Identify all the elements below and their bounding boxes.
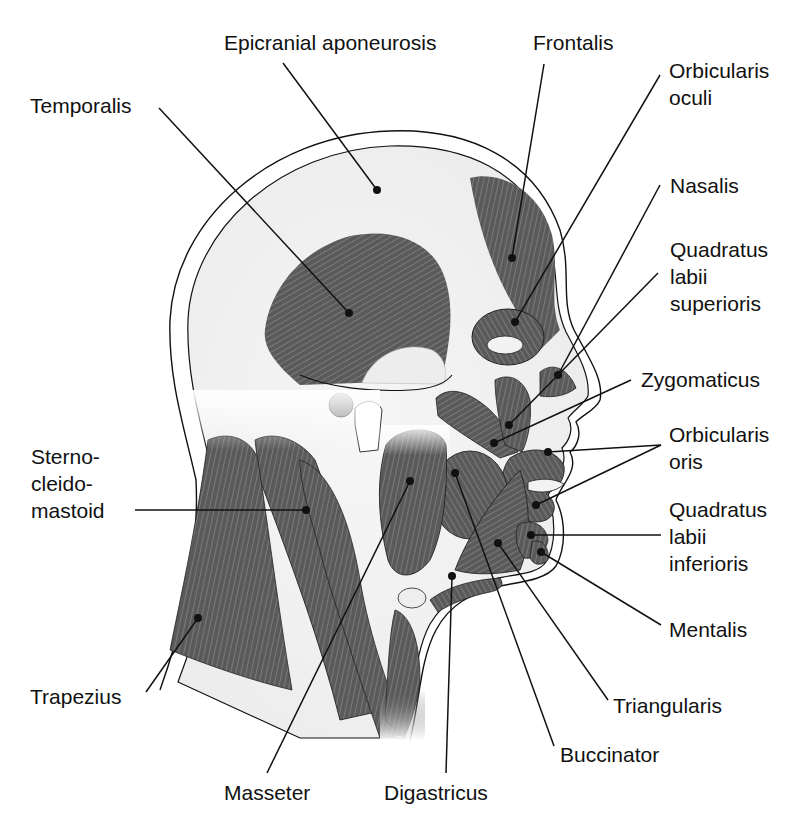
label-nasalis: Nasalis (670, 173, 739, 198)
label-frontalis: Frontalis (533, 30, 614, 55)
label-orbicularis-oculi-line2: oculi (669, 85, 712, 110)
masseter-fade (380, 425, 450, 455)
label-quadratus-labii-superioris-line1: Quadratus (670, 237, 768, 262)
label-zygomaticus: Zygomaticus (641, 367, 760, 392)
label-triangularis: Triangularis (613, 693, 722, 718)
lips-opening (528, 479, 564, 492)
infrahyoid-fade (380, 690, 425, 740)
label-orbicularis-oris-line2: oris (669, 449, 703, 474)
label-sternocleidomastoid-line2: cleido- (31, 471, 93, 496)
label-digastricus: Digastricus (384, 780, 488, 805)
leader-mentalis (541, 552, 661, 625)
label-quadratus-labii-inferioris-line3: inferioris (669, 551, 748, 576)
head-neck-muscles-diagram: Epicranial aponeurosis Frontalis Orbicul… (0, 0, 800, 814)
label-trapezius: Trapezius (30, 684, 121, 709)
label-quadratus-labii-superioris-line2: labii (670, 264, 707, 289)
leader-triangularis (498, 543, 608, 700)
label-buccinator: Buccinator (560, 742, 659, 767)
label-mentalis: Mentalis (669, 617, 747, 642)
label-masseter: Masseter (224, 780, 310, 805)
label-quadratus-labii-inferioris-line2: labii (669, 524, 706, 549)
label-orbicularis-oculi-line1: Orbicularis (669, 58, 769, 83)
neck-top-fade (190, 390, 380, 450)
leader-nasalis (558, 185, 660, 375)
label-quadratus-labii-inferioris-line1: Quadratus (669, 497, 767, 522)
hyoid-bone (398, 588, 426, 608)
label-temporalis: Temporalis (30, 93, 132, 118)
eye-opening (487, 336, 523, 354)
label-sternocleidomastoid-line1: Sterno- (31, 444, 100, 469)
label-sternocleidomastoid-line3: mastoid (31, 498, 105, 523)
leader-orbicularis-oris-upper (548, 445, 661, 452)
label-orbicularis-oris-line1: Orbicularis (669, 422, 769, 447)
label-epicranial-aponeurosis: Epicranial aponeurosis (224, 30, 436, 55)
label-quadratus-labii-superioris-line3: superioris (670, 291, 761, 316)
